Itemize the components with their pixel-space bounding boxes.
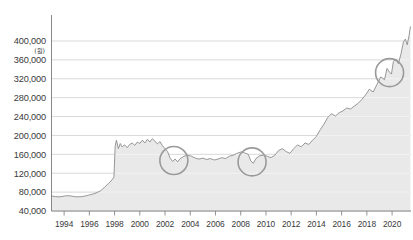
y-axis-tick-label: 160,000: [14, 150, 46, 160]
y-axis-tick-label: 360,000: [14, 55, 46, 65]
x-axis-tick-label: 1996: [80, 219, 99, 229]
x-axis-tick-label: 2010: [257, 219, 276, 229]
x-axis-tick-label: 2006: [206, 219, 225, 229]
x-axis-labels: 1994199619982000200220042006200820102012…: [55, 219, 402, 229]
unit-label: (원): [34, 47, 45, 54]
x-axis-tick-label: 1998: [105, 219, 124, 229]
y-axis-tick-label: 280,000: [14, 93, 46, 103]
x-axis-tick-label: 2008: [232, 219, 251, 229]
y-axis-tick-label: 120,000: [14, 169, 46, 179]
x-axis-tick-label: 2000: [131, 219, 150, 229]
series-area-price: [52, 27, 411, 211]
y-axis-tick-label: 200,000: [14, 131, 46, 141]
x-tick-marks: [64, 211, 392, 216]
chart-canvas: 40,00080,000120,000160,000200,000240,000…: [0, 0, 413, 240]
y-axis-tick-label: 320,000: [14, 74, 46, 84]
x-axis-tick-label: 2004: [181, 219, 200, 229]
x-axis-tick-label: 2016: [333, 219, 352, 229]
x-axis-tick-label: 2002: [156, 219, 175, 229]
y-axis-labels: 40,00080,000120,000160,000200,000240,000…: [14, 36, 46, 216]
x-axis-tick-label: 1994: [55, 219, 74, 229]
x-axis-tick-label: 2018: [358, 219, 377, 229]
x-axis-tick-label: 2014: [307, 219, 326, 229]
x-axis-tick-label: 2020: [383, 219, 402, 229]
area-fill: [52, 27, 411, 211]
y-axis-tick-label: 240,000: [14, 112, 46, 122]
price-area-chart: 40,00080,000120,000160,000200,000240,000…: [0, 0, 413, 240]
y-axis-tick-label: 80,000: [19, 187, 46, 197]
x-axis-tick-label: 2012: [282, 219, 301, 229]
y-axis-tick-label: 40,000: [19, 206, 46, 216]
y-axis-unit-label: (원): [34, 47, 45, 54]
y-axis-tick-label: 400,000: [14, 36, 46, 46]
